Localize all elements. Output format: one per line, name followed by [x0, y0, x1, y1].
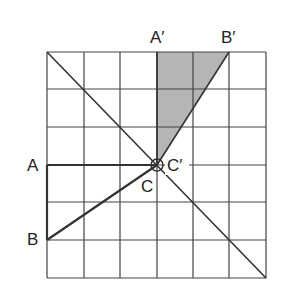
rotation-diagram: A B C C′ A′ B′ [0, 0, 283, 300]
label-c: C [141, 177, 153, 196]
label-c-prime: C′ [167, 156, 182, 175]
label-b-prime: B′ [221, 28, 236, 47]
label-a-prime: A′ [150, 28, 165, 47]
label-a: A [27, 156, 39, 175]
label-b: B [27, 230, 38, 249]
